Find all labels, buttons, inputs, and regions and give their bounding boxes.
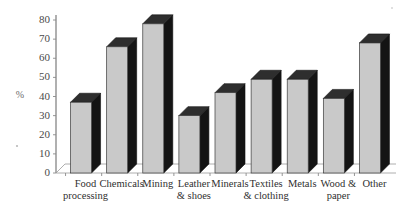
y-tick-label: 70 — [39, 32, 51, 44]
bar-column — [323, 89, 353, 173]
chart-canvas: 01020304050607080 % FoodprocessingChemic… — [0, 0, 403, 217]
bar-column — [107, 38, 137, 173]
bar-column — [251, 70, 281, 173]
bar-front-face — [287, 79, 308, 173]
bar-column — [359, 34, 389, 173]
y-tick-label: 50 — [39, 70, 51, 82]
bar-side-face — [272, 70, 281, 173]
bar-side-face — [128, 38, 137, 173]
bar-side-face — [236, 84, 245, 173]
y-tick-label: 30 — [39, 109, 51, 121]
x-category-label: Minerals — [211, 178, 248, 189]
y-tick-label: 80 — [39, 13, 51, 25]
x-category-label: Leather — [178, 178, 211, 189]
x-category-label: Chemicals — [100, 178, 144, 189]
bar-column — [71, 93, 101, 173]
x-category-label: Other — [362, 178, 386, 189]
x-category-label: Food — [75, 178, 97, 189]
bar-side-face — [380, 34, 389, 173]
bar-chart: 01020304050607080 % FoodprocessingChemic… — [0, 0, 403, 217]
y-axis — [53, 15, 56, 173]
bar-column — [215, 84, 245, 173]
y-tick-label: 10 — [39, 147, 51, 159]
bar-side-face — [308, 70, 317, 173]
bar-series — [71, 15, 390, 173]
bar-side-face — [92, 93, 101, 173]
bar-column — [143, 15, 173, 173]
y-tick-label: 60 — [39, 51, 51, 63]
bar-front-face — [107, 47, 128, 173]
x-category-label: & clothing — [244, 190, 290, 201]
y-tick-label: 40 — [39, 90, 51, 102]
y-tick-label: 0 — [45, 166, 51, 178]
x-category-label: Textiles — [250, 178, 283, 189]
y-tick-label: 20 — [39, 128, 51, 140]
x-category-label: Wood & — [321, 178, 357, 189]
bar-side-face — [200, 107, 209, 173]
x-category-label: Metals — [288, 178, 317, 189]
x-category-label: Mining — [142, 178, 174, 189]
bar-front-face — [323, 98, 344, 173]
bar-front-face — [359, 43, 380, 173]
y-axis-title-text: % — [16, 89, 24, 100]
x-category-label: processing — [63, 190, 109, 201]
y-axis-title: % — [16, 89, 24, 100]
y-axis-tick-labels: 01020304050607080 — [39, 13, 51, 178]
bar-column — [179, 107, 209, 173]
bar-column — [287, 70, 317, 173]
x-category-label: & shoes — [177, 190, 211, 201]
bar-side-face — [164, 15, 173, 173]
bar-side-face — [344, 89, 353, 173]
bar-front-face — [179, 116, 200, 173]
x-category-label: paper — [327, 190, 351, 201]
x-axis-category-labels: FoodprocessingChemicalsMiningLeather& sh… — [63, 178, 387, 201]
bar-front-face — [251, 79, 272, 173]
bar-front-face — [143, 24, 164, 173]
bar-front-face — [71, 102, 92, 173]
bar-front-face — [215, 93, 236, 173]
